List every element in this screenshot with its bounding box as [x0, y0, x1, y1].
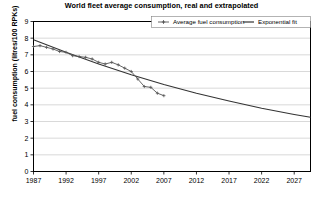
plot-area: 0123456789 19871992199720022007201220172…: [0, 0, 323, 197]
legend-label: Average fuel consumption: [173, 18, 245, 25]
data-point-marker: [45, 46, 48, 49]
y-tick-label: 9: [25, 18, 29, 25]
data-point-marker: [162, 94, 165, 97]
y-tick-label: 3: [25, 118, 29, 125]
y-tick-label: 7: [25, 51, 29, 58]
x-tick-label: 2017: [221, 177, 237, 184]
legend-label: Exponential fit: [258, 18, 297, 25]
data-point-marker: [104, 62, 107, 65]
data-point-marker: [32, 45, 35, 48]
data-point-marker: [91, 57, 94, 60]
data-point-marker: [117, 63, 120, 66]
data-point-marker: [110, 61, 113, 64]
data-point-marker: [38, 44, 41, 47]
x-tick-label: 2002: [123, 177, 139, 184]
x-tick-label: 2027: [286, 177, 302, 184]
y-tick-label: 2: [25, 135, 29, 142]
chart-legend: Average fuel consumptionExponential fit: [152, 17, 311, 28]
x-tick-label: 2007: [156, 177, 172, 184]
series-exponential-fit: [34, 40, 311, 118]
x-tick-label: 1997: [91, 177, 107, 184]
y-tick-label: 1: [25, 151, 29, 158]
plot-frame: [34, 22, 311, 172]
data-point-marker: [64, 51, 67, 54]
chart-container: World fleet average consumption, real an…: [0, 0, 323, 197]
y-axis-ticks: 0123456789: [25, 18, 34, 175]
x-axis-ticks: 198719921997200220072012201720222027: [26, 172, 302, 184]
x-tick-label: 1987: [26, 177, 42, 184]
y-tick-label: 4: [25, 101, 29, 108]
x-tick-label: 2022: [254, 177, 270, 184]
grid-lines: [34, 22, 311, 155]
data-point-marker: [123, 67, 126, 70]
data-series: [32, 40, 311, 118]
y-tick-label: 5: [25, 85, 29, 92]
y-tick-label: 6: [25, 68, 29, 75]
y-tick-label: 0: [25, 168, 29, 175]
x-tick-label: 2012: [189, 177, 205, 184]
x-tick-label: 1992: [58, 177, 74, 184]
y-tick-label: 8: [25, 35, 29, 42]
